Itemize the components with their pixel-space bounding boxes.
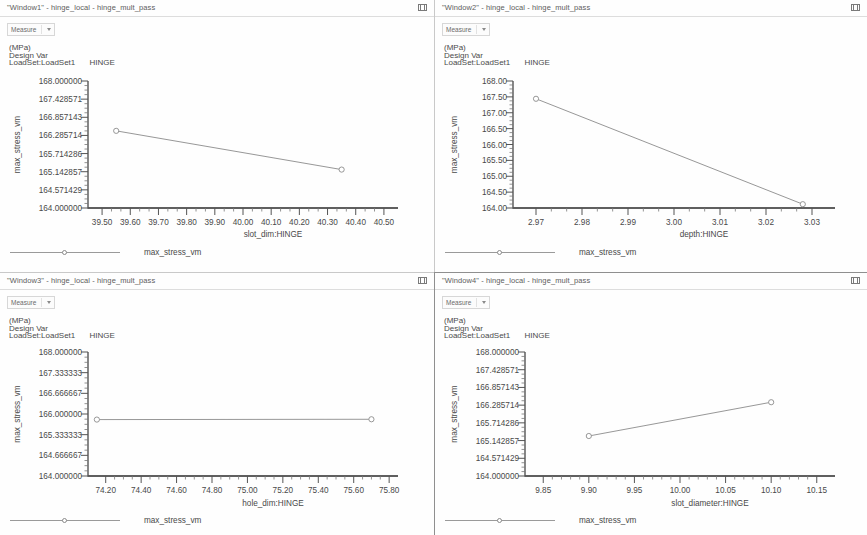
svg-text:2.98: 2.98	[574, 218, 590, 227]
plot-legend-2: max_stress_vm	[445, 248, 636, 257]
window-titlebar-1[interactable]: "Window1" - hinge_local - hinge_mult_pas…	[0, 0, 434, 17]
measure-label-1: Measure	[11, 26, 36, 33]
svg-text:10.00: 10.00	[670, 486, 691, 495]
legend-label-3: max_stress_vm	[144, 516, 201, 525]
svg-text:165.714286: 165.714286	[476, 418, 520, 427]
svg-text:164.571429: 164.571429	[476, 454, 520, 463]
svg-text:max_stress_vm: max_stress_vm	[13, 115, 22, 173]
window-title-4: "Window4" - hinge_local - hinge_mult_pas…	[442, 276, 861, 285]
svg-text:2.97: 2.97	[528, 218, 544, 227]
plot-header-info-3: (MPa) Design Var LoadSet:LoadSet1 HINGE	[0, 311, 434, 340]
window-close-icon-2[interactable]	[851, 3, 860, 12]
svg-text:74.60: 74.60	[166, 486, 187, 495]
svg-text:165.00: 165.00	[482, 172, 507, 181]
measure-dropdown-4[interactable]: Measure	[442, 296, 490, 309]
graph-window-3[interactable]: "Window3" - hinge_local - hinge_mult_pas…	[0, 272, 434, 535]
window-toolbar-1: Measure	[0, 17, 434, 38]
svg-text:39.90: 39.90	[205, 218, 226, 227]
graph-window-grid: "Window1" - hinge_local - hinge_mult_pas…	[0, 0, 867, 535]
window-close-icon-1[interactable]	[418, 3, 427, 12]
window-close-icon-3[interactable]	[418, 276, 427, 285]
toolbar-divider-1	[41, 25, 42, 34]
svg-text:10.10: 10.10	[761, 486, 782, 495]
legend-label-1: max_stress_vm	[144, 248, 201, 257]
svg-text:10.05: 10.05	[715, 486, 736, 495]
svg-text:166.857143: 166.857143	[476, 383, 520, 392]
svg-text:165.333333: 165.333333	[39, 430, 83, 439]
svg-text:hole_dim:HINGE: hole_dim:HINGE	[242, 499, 304, 508]
svg-text:164.50: 164.50	[482, 188, 507, 197]
chevron-down-icon-1[interactable]	[47, 28, 51, 31]
plot-svg-3: 168.000000167.333333166.666667166.000000…	[0, 340, 434, 515]
toolbar-divider-3	[41, 298, 42, 307]
svg-text:74.40: 74.40	[131, 486, 152, 495]
svg-text:168.000000: 168.000000	[476, 348, 520, 357]
chevron-down-icon-3[interactable]	[47, 301, 51, 304]
window-close-icon-4[interactable]	[851, 276, 860, 285]
graph-window-2[interactable]: "Window2" - hinge_local - hinge_mult_pas…	[434, 0, 867, 272]
svg-text:166.285714: 166.285714	[476, 401, 520, 410]
legend-marker-icon-1	[62, 250, 67, 255]
svg-text:164.000000: 164.000000	[476, 472, 520, 481]
svg-text:166.285714: 166.285714	[39, 131, 83, 140]
svg-text:39.80: 39.80	[176, 218, 197, 227]
graph-window-1[interactable]: "Window1" - hinge_local - hinge_mult_pas…	[0, 0, 434, 272]
toolbar-divider-4	[476, 298, 477, 307]
window-title-1: "Window1" - hinge_local - hinge_mult_pas…	[7, 3, 428, 12]
svg-text:depth:HINGE: depth:HINGE	[680, 230, 729, 239]
svg-text:167.428571: 167.428571	[476, 365, 520, 374]
chevron-down-icon-4[interactable]	[482, 301, 486, 304]
svg-text:164.000000: 164.000000	[39, 472, 83, 481]
measure-dropdown-2[interactable]: Measure	[442, 23, 490, 36]
loadset-label-3: LoadSet:LoadSet1	[9, 332, 75, 340]
plot-area-4: 168.000000167.428571166.857143166.285714…	[435, 340, 867, 515]
svg-text:168.00: 168.00	[482, 77, 507, 86]
toolbar-divider-2	[476, 25, 477, 34]
window-toolbar-3: Measure	[0, 290, 434, 311]
svg-text:74.80: 74.80	[202, 486, 223, 495]
legend-swatch-2	[445, 249, 555, 257]
svg-text:165.142857: 165.142857	[39, 167, 83, 176]
legend-marker-icon-3	[62, 518, 67, 523]
plot-header-info-4: (MPa) Design Var LoadSet:LoadSet1 HINGE	[435, 311, 867, 340]
units-label-3: (MPa)	[9, 317, 434, 325]
svg-text:40.20: 40.20	[289, 218, 310, 227]
chevron-down-icon-2[interactable]	[482, 28, 486, 31]
measure-dropdown-3[interactable]: Measure	[7, 296, 55, 309]
svg-text:40.00: 40.00	[233, 218, 254, 227]
hinge-label-2: HINGE	[525, 59, 550, 67]
loadset-label-2: LoadSet:LoadSet1	[444, 59, 510, 67]
window-titlebar-2[interactable]: "Window2" - hinge_local - hinge_mult_pas…	[435, 0, 867, 17]
svg-text:167.333333: 167.333333	[39, 368, 83, 377]
svg-text:168.000000: 168.000000	[39, 348, 83, 357]
graph-window-4[interactable]: "Window4" - hinge_local - hinge_mult_pas…	[434, 272, 867, 535]
svg-text:75.40: 75.40	[308, 486, 329, 495]
measure-label-3: Measure	[11, 299, 36, 306]
svg-text:164.666667: 164.666667	[39, 451, 83, 460]
svg-text:40.30: 40.30	[317, 218, 338, 227]
svg-text:166.857143: 166.857143	[39, 113, 83, 122]
window-toolbar-4: Measure	[435, 290, 867, 311]
measure-label-4: Measure	[446, 299, 471, 306]
measure-dropdown-1[interactable]: Measure	[7, 23, 55, 36]
window-titlebar-4[interactable]: "Window4" - hinge_local - hinge_mult_pas…	[435, 273, 867, 290]
svg-text:40.50: 40.50	[374, 218, 395, 227]
svg-text:40.40: 40.40	[345, 218, 366, 227]
window-title-3: "Window3" - hinge_local - hinge_mult_pas…	[7, 276, 428, 285]
hinge-label-1: HINGE	[90, 59, 115, 67]
legend-label-2: max_stress_vm	[579, 248, 636, 257]
svg-text:40.10: 40.10	[261, 218, 282, 227]
legend-marker-icon-4	[497, 518, 502, 523]
svg-text:3.03: 3.03	[804, 218, 820, 227]
svg-text:slot_dim:HINGE: slot_dim:HINGE	[244, 230, 303, 239]
svg-text:165.714286: 165.714286	[39, 149, 83, 158]
window-titlebar-3[interactable]: "Window3" - hinge_local - hinge_mult_pas…	[0, 273, 434, 290]
units-label-2: (MPa)	[444, 44, 867, 52]
svg-text:74.20: 74.20	[95, 486, 116, 495]
svg-text:164.571429: 164.571429	[39, 185, 83, 194]
svg-text:slot_diameter:HINGE: slot_diameter:HINGE	[671, 499, 749, 508]
legend-swatch-3	[10, 517, 120, 525]
svg-text:75.80: 75.80	[379, 486, 400, 495]
svg-text:max_stress_vm: max_stress_vm	[13, 385, 22, 443]
window-toolbar-2: Measure	[435, 17, 867, 38]
